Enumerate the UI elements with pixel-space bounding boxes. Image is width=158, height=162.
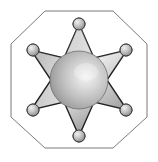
center-sphere: [50, 51, 108, 109]
badge-image-canvas: Sheriff Star Badge: [0, 0, 158, 162]
sheriff-badge-illustration: [0, 0, 158, 162]
ball-bottom-front: [73, 130, 85, 142]
ball-upper-right-front: [120, 44, 132, 56]
ball-lower-right-front: [120, 104, 132, 116]
ball-top-front: [73, 18, 85, 30]
sphere-highlight: [74, 63, 98, 81]
ball-upper-left-front: [27, 44, 39, 56]
ball-lower-left-front: [27, 104, 39, 116]
